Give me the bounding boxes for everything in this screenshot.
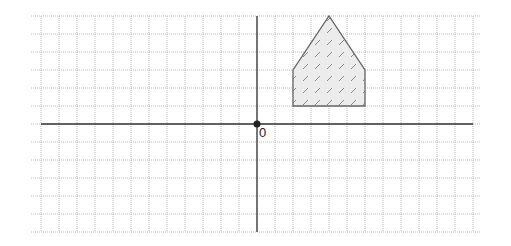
shaded-pentagon <box>293 16 365 106</box>
coordinate-grid <box>0 0 511 246</box>
origin-label: 0 <box>259 125 266 140</box>
